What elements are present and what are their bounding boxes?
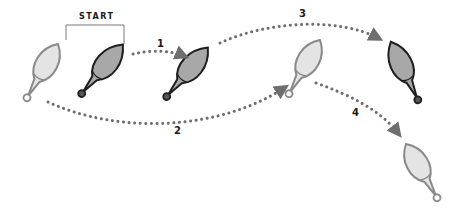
arrow-step-1 xyxy=(133,51,184,56)
step-2-label: 2 xyxy=(174,125,181,136)
diagram-canvas xyxy=(0,0,464,220)
step-1-label: 1 xyxy=(157,38,164,49)
step-4-label: 4 xyxy=(352,107,359,118)
club-dark-step1-icon xyxy=(156,40,216,106)
start-label: START xyxy=(79,12,115,21)
juggling-pattern-diagram: START 1 2 3 4 xyxy=(0,0,464,220)
club-dark-step3-icon xyxy=(381,37,429,107)
club-light-step4-icon xyxy=(397,139,449,207)
club-light-left-icon xyxy=(16,39,68,107)
start-bracket xyxy=(66,25,124,44)
arrow-step-3 xyxy=(220,24,378,43)
club-light-step2-icon xyxy=(278,35,330,103)
step-3-label: 3 xyxy=(299,8,306,19)
club-dark-start-icon xyxy=(71,37,131,103)
